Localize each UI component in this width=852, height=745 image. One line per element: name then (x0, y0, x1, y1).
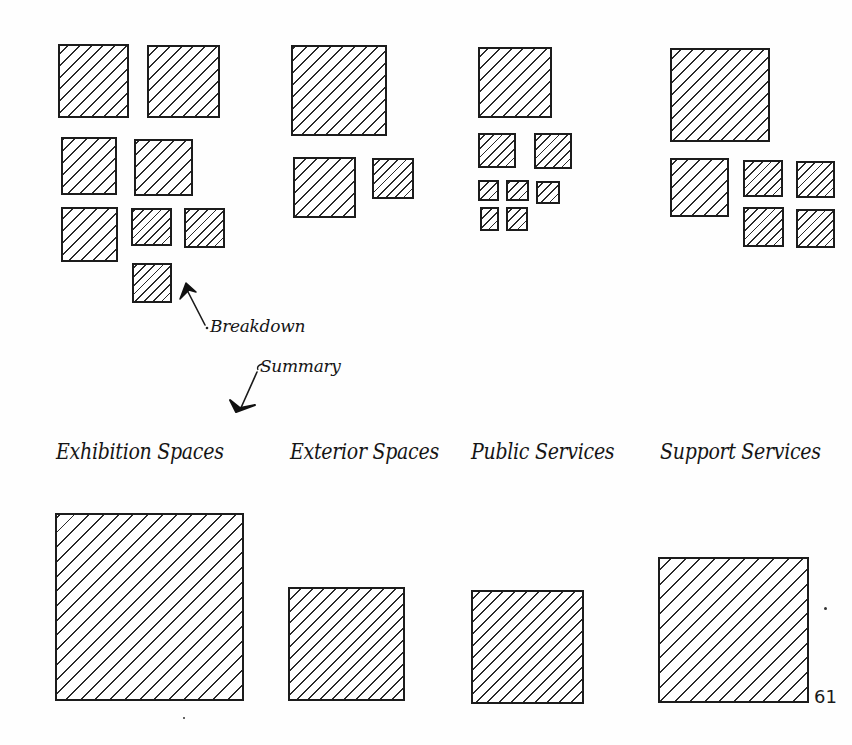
page-number: 61 (814, 686, 837, 707)
breakdown-box (796, 209, 835, 248)
stray-mark (824, 607, 827, 610)
heading-public-services: Public Services (471, 438, 614, 463)
breakdown-box (743, 160, 783, 197)
breakdown-box (534, 133, 572, 169)
breakdown-box (478, 133, 516, 168)
summary-box-support (658, 557, 809, 703)
breakdown-box (147, 45, 220, 118)
breakdown-box (480, 207, 499, 231)
breakdown-box (132, 263, 172, 303)
heading-exterior-spaces: Exterior Spaces (290, 438, 439, 463)
breakdown-box (506, 207, 528, 231)
breakdown-label: Breakdown (210, 316, 305, 336)
breakdown-box (743, 207, 784, 247)
heading-exhibition-spaces: Exhibition Spaces (56, 438, 224, 463)
breakdown-box (293, 157, 356, 218)
breakdown-box (796, 161, 835, 198)
summary-label: Summary (260, 356, 341, 376)
breakdown-box (184, 208, 225, 248)
breakdown-box (372, 158, 414, 199)
heading-support-services: Support Services (660, 438, 821, 463)
breakdown-box (131, 208, 172, 246)
breakdown-box (478, 180, 499, 201)
sketch-sheet: Breakdown Summary Exhibition Spaces Exte… (0, 0, 852, 745)
summary-box-public (471, 590, 584, 704)
breakdown-box (478, 47, 552, 118)
breakdown-box (291, 45, 387, 136)
stray-mark (183, 717, 185, 719)
breakdown-arrow-icon (180, 283, 208, 329)
breakdown-box (536, 181, 560, 204)
breakdown-box (506, 180, 529, 201)
breakdown-box (61, 207, 118, 262)
summary-box-exhibition (55, 513, 244, 701)
breakdown-box (670, 158, 729, 217)
breakdown-box (670, 48, 770, 142)
summary-box-exterior (288, 587, 405, 701)
breakdown-box (58, 44, 129, 118)
summary-arrow-icon (230, 364, 262, 412)
breakdown-box (61, 137, 117, 195)
breakdown-box (134, 139, 193, 196)
